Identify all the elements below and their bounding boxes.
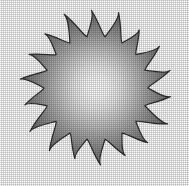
sun-illustration	[0, 0, 189, 186]
image-canvas: Sun Starburst Stylized sun with pointed …	[0, 0, 189, 186]
